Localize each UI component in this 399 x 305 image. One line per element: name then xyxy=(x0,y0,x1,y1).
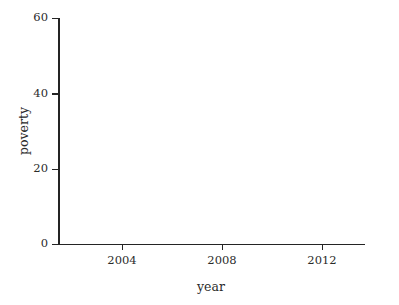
chart-canvas: 60 40 20 0 2004 2008 2012 poverty year xyxy=(0,0,399,305)
x-axis-title: year xyxy=(176,280,246,294)
x-axis-tick-label-2012: 2012 xyxy=(287,254,357,266)
y-axis-tick-label-60: 60 xyxy=(0,12,48,24)
x-axis-tick-2012 xyxy=(322,245,323,250)
y-axis-title: poverty xyxy=(15,71,33,191)
x-axis-tick-label-2008: 2008 xyxy=(187,254,257,266)
y-axis-tick-60 xyxy=(52,18,58,19)
y-axis-tick-label-0: 0 xyxy=(0,238,48,250)
x-axis-tick-2004 xyxy=(122,245,123,250)
x-axis-tick-2008 xyxy=(222,245,223,250)
y-axis-tick-40 xyxy=(52,93,58,94)
x-axis-line xyxy=(58,244,365,246)
x-axis-tick-label-2004: 2004 xyxy=(87,254,157,266)
y-axis-tick-0 xyxy=(52,244,58,245)
plot-area xyxy=(59,18,365,244)
y-axis-tick-20 xyxy=(52,169,58,170)
y-axis-line xyxy=(58,18,60,245)
